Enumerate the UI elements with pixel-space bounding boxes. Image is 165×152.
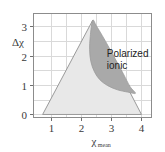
y-axis-label: Δχ bbox=[12, 36, 24, 48]
x-axis-tick-label: 2 bbox=[79, 122, 85, 134]
y-axis-tick-label: 2 bbox=[22, 51, 28, 63]
y-axis-tick-label: 0 bbox=[22, 109, 28, 121]
y-axis-tick-label: 3 bbox=[22, 21, 28, 33]
van-arkel-ketelaar-triangle-chart: 1234 0123 Δχ χ mean Polarized ionic bbox=[0, 0, 165, 152]
y-axis-tick-label: 1 bbox=[22, 80, 28, 92]
chart-figure: 1234 0123 Δχ χ mean Polarized ionic bbox=[0, 0, 165, 152]
region-label-line-1: Polarized bbox=[107, 48, 149, 59]
region-label-line-2: ionic bbox=[107, 60, 128, 71]
x-axis-tick-label: 4 bbox=[139, 122, 145, 134]
x-axis-label-subscript: mean bbox=[98, 142, 111, 148]
x-axis-tick-label: 1 bbox=[49, 122, 55, 134]
x-axis-tick-label: 3 bbox=[109, 122, 115, 134]
x-axis-label-symbol: χ bbox=[90, 135, 96, 147]
x-axis-tick-labels: 1234 bbox=[49, 122, 145, 134]
x-axis-label: χ mean bbox=[90, 135, 110, 148]
